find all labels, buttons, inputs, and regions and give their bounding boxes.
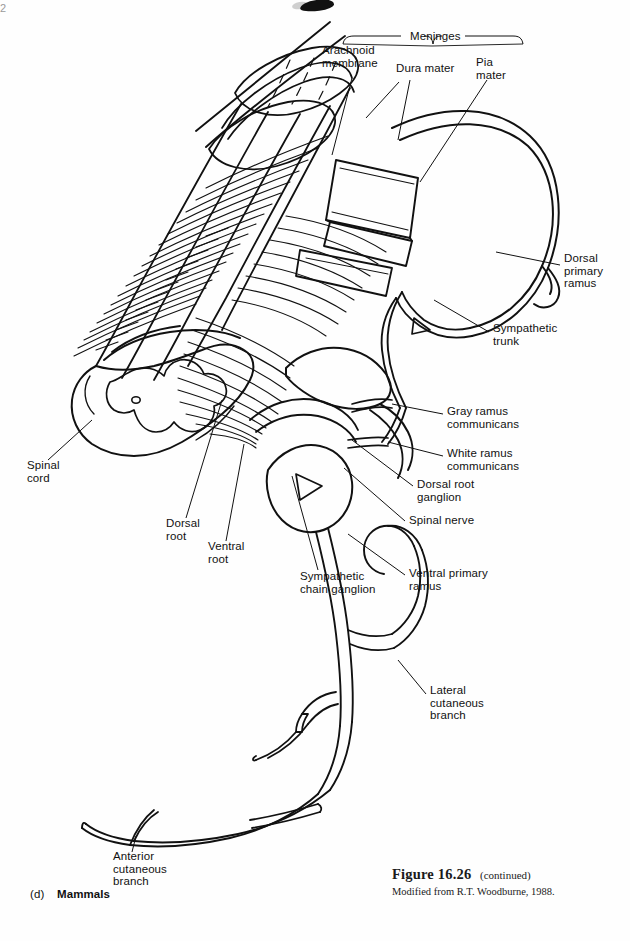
label-spinal-cord: Spinal cord: [27, 459, 60, 484]
secondary-branch-spur: [296, 692, 338, 732]
sympathetic-chain-ganglion: [267, 445, 352, 532]
label-arachnoid-membrane: Arachnoid membrane: [322, 44, 378, 69]
anatomical-illustration: [0, 0, 630, 941]
ventral-rootlets: [178, 216, 386, 448]
bracket-right: [465, 36, 523, 44]
figure-caption-title: Figure 16.26: [392, 866, 471, 883]
label-lateral-cutaneous-branch: Lateral cutaneous branch: [430, 684, 484, 722]
anterior-cutaneous-branch: [82, 790, 330, 846]
anterior-branch-ascending: [130, 810, 158, 845]
figure-page: 2: [0, 0, 630, 941]
figure-caption-source: Modified from R.T. Woodburne, 1988.: [392, 886, 555, 897]
dural-root-sleeve-lower: [296, 250, 392, 296]
dural-sac-outline: [392, 111, 559, 336]
label-anterior-cutaneous-branch: Anterior cutaneous branch: [113, 850, 167, 888]
dural-root-sleeve: [324, 160, 418, 266]
label-ventral-root: Ventral root: [208, 540, 245, 565]
label-sympathetic-chain-ganglion: Sympathetic chain ganglion: [300, 570, 376, 595]
ramus-bifurcation: [348, 630, 394, 650]
panel-name: Mammals: [57, 888, 110, 901]
label-dura-mater: Dura mater: [396, 62, 455, 75]
label-gray-ramus-communicans: Gray ramus communicans: [447, 405, 519, 430]
ventral-primary-ramus: [316, 528, 353, 794]
figure-caption-continued: (continued): [480, 869, 531, 881]
label-spinal-nerve: Spinal nerve: [409, 514, 474, 527]
panel-letter: (d): [30, 888, 44, 901]
label-sympathetic-trunk: Sympathetic trunk: [493, 322, 557, 347]
nerve-tail: [253, 724, 308, 761]
dorsal-rootlets: [74, 136, 328, 356]
label-pia-mater: Pia mater: [476, 56, 506, 81]
label-ventral-primary-ramus: Ventral primary ramus: [409, 567, 488, 592]
dura-mater-sheath: [196, 22, 345, 147]
label-dorsal-root-ganglion: Dorsal root ganglion: [417, 478, 474, 503]
label-white-ramus-communicans: White ramus communicans: [447, 447, 519, 472]
label-meninges: Meninges: [410, 30, 461, 43]
dorsal-primary-ramus: [396, 292, 472, 338]
bracket-left: [343, 36, 401, 44]
label-dorsal-root: Dorsal root: [166, 517, 200, 542]
label-dorsal-primary-ramus: Dorsal primary ramus: [564, 252, 603, 290]
